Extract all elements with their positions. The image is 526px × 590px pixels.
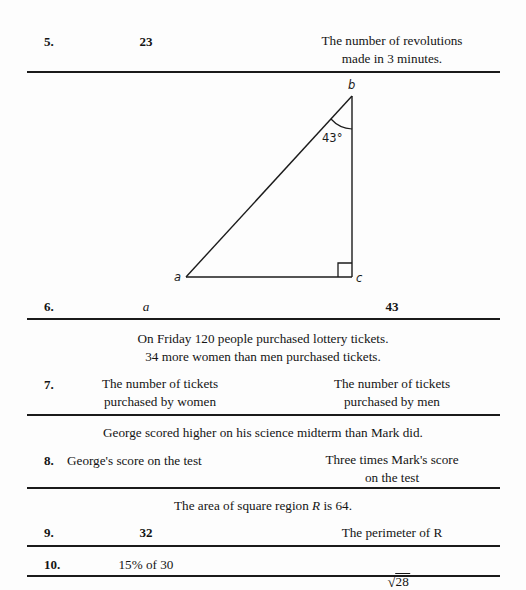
row-5-column-b-line1: The number of revolutions xyxy=(277,32,507,50)
row-6-column-b: 43 xyxy=(386,298,399,315)
row-7-column-a-line1: The number of tickets xyxy=(45,375,275,393)
vertex-c-label: c xyxy=(356,271,362,285)
stimulus-square-region-variable: R xyxy=(312,498,320,513)
angle-measure-label: 43° xyxy=(322,131,342,145)
row-5-number: 5. xyxy=(44,33,54,50)
row-6-column-a: a xyxy=(143,298,150,315)
row-5-column-b-line2: made in 3 minutes. xyxy=(277,50,507,68)
stimulus-scores: George scored higher on his science midt… xyxy=(0,424,526,442)
divider-rule-1 xyxy=(27,71,500,73)
row-7-column-b-line1: The number of tickets xyxy=(277,375,507,393)
stimulus-square-region-post: is 64. xyxy=(320,498,352,513)
vertex-b-label: b xyxy=(348,78,355,92)
row-9-number: 9. xyxy=(44,524,54,541)
stimulus-square-region: The area of square region R is 64. xyxy=(0,497,526,515)
row-10-column-b: √28 xyxy=(374,556,410,590)
row-10-number: 10. xyxy=(44,556,60,573)
divider-rule-6 xyxy=(27,575,500,577)
divider-rule-2 xyxy=(27,318,500,320)
right-angle-marker-c xyxy=(338,263,352,277)
row-7-column-b-line2: purchased by men xyxy=(277,393,507,411)
row-7-column-a-line2: purchased by women xyxy=(45,393,275,411)
divider-rule-4 xyxy=(27,487,500,489)
row-7-column-a: The number of tickets purchased by women xyxy=(45,375,275,410)
row-6-number: 6. xyxy=(44,298,54,315)
stimulus-lottery-line1: On Friday 120 people purchased lottery t… xyxy=(0,330,526,348)
angle-arc-b xyxy=(331,119,352,129)
row-9-column-b: The perimeter of R xyxy=(342,524,443,541)
row-8-column-a: George's score on the test xyxy=(67,452,202,469)
worksheet-page: 5. 23 The number of revolutions made in … xyxy=(0,0,526,590)
row-5-column-a: 23 xyxy=(140,33,153,50)
triangle-svg xyxy=(0,75,526,295)
divider-rule-3 xyxy=(27,414,500,416)
row-10-column-a: 15% of 30 xyxy=(119,556,174,573)
stimulus-lottery-line2: 34 more women than men purchased tickets… xyxy=(0,348,526,366)
vertex-a-label: a xyxy=(174,270,181,284)
row-8-column-b: Three times Mark's score on the test xyxy=(277,451,507,486)
right-triangle-figure: a b c 43° xyxy=(0,75,526,295)
row-9-column-a: 32 xyxy=(140,524,153,541)
row-5-column-b: The number of revolutions made in 3 minu… xyxy=(277,32,507,67)
divider-rule-5 xyxy=(27,545,500,547)
row-8-column-b-line2: on the test xyxy=(277,469,507,487)
row-7-column-b: The number of tickets purchased by men xyxy=(277,375,507,410)
stimulus-square-region-pre: The area of square region xyxy=(174,498,312,513)
triangle-side-ab xyxy=(186,96,352,277)
row-8-column-b-line1: Three times Mark's score xyxy=(277,451,507,469)
row-8-number: 8. xyxy=(44,452,54,469)
